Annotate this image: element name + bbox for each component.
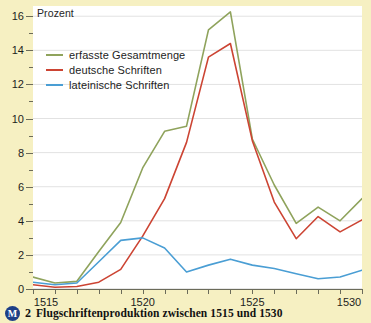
x-axis-tick — [296, 289, 297, 294]
y-axis-tick-label: 0 — [18, 283, 24, 295]
x-axis-tick — [77, 289, 78, 294]
figure-container: Prozent 0246810121416 1515152015251530 e… — [0, 0, 371, 323]
x-axis-line — [33, 289, 362, 290]
x-axis-tick — [362, 289, 363, 294]
x-axis-tick — [318, 289, 319, 294]
y-axis-major-tick — [26, 187, 33, 188]
series-line-2 — [33, 238, 362, 285]
y-axis-minor-tick — [29, 33, 33, 34]
legend-color-swatch — [46, 69, 63, 71]
caption-number: 2 — [25, 306, 31, 321]
x-axis-tick — [340, 289, 341, 294]
y-axis-minor-tick — [29, 67, 33, 68]
x-axis-tick — [33, 289, 34, 294]
x-axis-tick — [143, 289, 144, 294]
y-axis-minor-tick — [29, 238, 33, 239]
y-axis-major-tick — [26, 289, 33, 290]
y-axis-tick-label: 6 — [18, 181, 24, 193]
legend-item: deutsche Schriften — [46, 63, 185, 76]
y-axis-major-tick — [26, 16, 33, 17]
y-axis-major-tick — [26, 84, 33, 85]
legend-color-swatch — [46, 84, 63, 86]
x-axis-tick — [55, 289, 56, 294]
y-axis-tick-label: 2 — [18, 249, 24, 261]
legend-item: erfasste Gesamtmenge — [46, 48, 185, 61]
y-axis-tick-label: 14 — [12, 44, 24, 56]
caption-badge-icon: M — [5, 306, 20, 321]
y-axis-minor-tick — [29, 204, 33, 205]
caption-text: Flugschriftenproduktion zwischen 1515 un… — [36, 307, 283, 319]
y-axis-minor-tick — [29, 170, 33, 171]
y-axis-minor-tick — [29, 272, 33, 273]
y-axis-major-tick — [26, 50, 33, 51]
y-axis-tick-label: 12 — [12, 78, 24, 90]
y-axis-minor-tick — [29, 136, 33, 137]
y-axis: 0246810121416 — [0, 6, 33, 289]
x-axis-tick — [187, 289, 188, 294]
x-axis-tick — [252, 289, 253, 294]
legend: erfasste Gesamtmengedeutsche Schriftenla… — [46, 48, 185, 91]
legend-item-label: deutsche Schriften — [69, 64, 162, 76]
y-axis-tick-label: 10 — [12, 113, 24, 125]
y-axis-title: Prozent — [37, 7, 74, 19]
x-axis-tick — [99, 289, 100, 294]
y-axis-tick-label: 4 — [18, 215, 24, 227]
legend-item-label: erfasste Gesamtmenge — [69, 49, 185, 61]
legend-item-label: lateinische Schriften — [69, 79, 170, 91]
figure-caption: M 2 Flugschriftenproduktion zwischen 151… — [0, 303, 371, 323]
legend-color-swatch — [46, 54, 63, 56]
y-axis-major-tick — [26, 255, 33, 256]
x-axis-tick — [121, 289, 122, 294]
x-axis-tick — [230, 289, 231, 294]
y-axis-major-tick — [26, 153, 33, 154]
x-axis-tick — [165, 289, 166, 294]
x-axis-tick — [208, 289, 209, 294]
y-axis-minor-tick — [29, 101, 33, 102]
y-axis-tick-label: 16 — [12, 10, 24, 22]
y-axis-tick-label: 8 — [18, 147, 24, 159]
y-axis-major-tick — [26, 119, 33, 120]
x-axis-tick — [274, 289, 275, 294]
y-axis-major-tick — [26, 221, 33, 222]
legend-item: lateinische Schriften — [46, 78, 185, 91]
